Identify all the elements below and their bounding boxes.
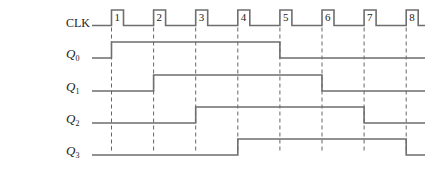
pulse-number-2: 2: [157, 11, 163, 23]
waveform-q1: [92, 75, 425, 91]
waveform-q0: [92, 42, 425, 58]
signal-waveforms: Q0Q1Q2Q3: [66, 42, 425, 160]
signal-label-q1: Q1: [66, 79, 79, 96]
pulse-number-8: 8: [409, 11, 415, 23]
clk-label: CLK: [66, 16, 90, 30]
pulse-number-7: 7: [367, 11, 373, 23]
pulse-number-4: 4: [241, 11, 247, 23]
clock-waveform: [92, 10, 425, 26]
clock-edge-markers: [112, 28, 407, 153]
signal-label-q3: Q3: [66, 143, 79, 160]
waveform-q2: [92, 107, 425, 123]
signal-label-q2: Q2: [66, 111, 79, 128]
timing-diagram: CLK 12345678 Q0Q1Q2Q3: [0, 0, 448, 170]
signal-label-q0: Q0: [66, 46, 79, 63]
pulse-number-3: 3: [199, 11, 205, 23]
waveform-q3: [92, 139, 425, 155]
pulse-number-1: 1: [115, 11, 121, 23]
pulse-number-5: 5: [283, 11, 289, 23]
clock-waveform-group: 12345678: [92, 10, 425, 26]
pulse-number-6: 6: [325, 11, 331, 23]
